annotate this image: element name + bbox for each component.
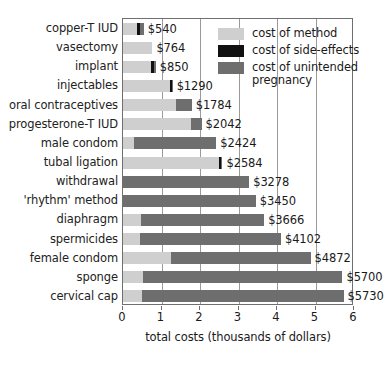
stacked-bar[interactable]: [123, 137, 216, 149]
legend-item-side-effects: cost of side-effects: [218, 44, 360, 57]
bar-segment-method: [123, 23, 137, 35]
legend-label-unintended-pregnancy: cost of unintended pregnancy: [252, 61, 360, 87]
bar-row[interactable]: $2584: [123, 157, 352, 169]
y-axis-label-withdrawal: withdrawal: [56, 174, 118, 188]
bar-segment-preg: [141, 214, 264, 226]
legend-swatch-unintended-pregnancy-icon: [218, 62, 244, 74]
x-tick-label: 5: [311, 310, 318, 324]
stacked-bar[interactable]: [123, 118, 202, 130]
bar-row[interactable]: $1784: [123, 99, 352, 111]
bar-value-label: $3278: [253, 175, 289, 189]
legend-swatch-side-effects-icon: [218, 45, 244, 57]
bar-value-label: $2042: [206, 117, 242, 131]
legend-label-method: cost of method: [252, 27, 337, 40]
stacked-bar[interactable]: [123, 214, 264, 226]
y-axis-label-copper-t-iud: copper-T IUD: [46, 21, 118, 35]
stacked-bar[interactable]: [123, 290, 344, 302]
bar-row[interactable]: $3278: [123, 176, 352, 188]
bar-segment-method: [123, 214, 141, 226]
x-axis-ticks: 0123456: [122, 306, 354, 322]
y-axis-label-sponge: sponge: [77, 270, 118, 284]
y-axis-label-vasectomy: vasectomy: [56, 40, 118, 54]
stacked-bar[interactable]: [123, 195, 256, 207]
bar-segment-preg: [143, 271, 342, 283]
bar-segment-preg: [123, 195, 256, 207]
bar-segment-method: [123, 99, 176, 111]
stacked-bar[interactable]: [123, 176, 249, 188]
bar-row[interactable]: $3666: [123, 214, 352, 226]
stacked-bar[interactable]: [123, 233, 281, 245]
y-axis-label-injectables: injectables: [57, 78, 118, 92]
bar-segment-preg: [221, 157, 222, 169]
y-axis-label-female-condom: female condom: [30, 251, 118, 265]
legend-item-unintended-pregnancy: cost of unintended pregnancy: [218, 61, 360, 87]
bar-row[interactable]: $3450: [123, 195, 352, 207]
stacked-bar[interactable]: [123, 271, 342, 283]
bar-segment-preg: [154, 61, 156, 73]
bar-value-label: $4872: [315, 251, 351, 265]
bar-chart: copper-T IUDvasectomyimplantinjectableso…: [0, 0, 388, 365]
bar-row[interactable]: $2042: [123, 118, 352, 130]
stacked-bar[interactable]: [123, 252, 311, 264]
y-axis-label-implant: implant: [75, 59, 118, 73]
bar-segment-preg: [123, 176, 249, 188]
bar-segment-method: [123, 61, 151, 73]
y-axis-label-cervical-cap: cervical cap: [50, 289, 118, 303]
stacked-bar[interactable]: [123, 157, 222, 169]
bar-value-label: $764: [156, 41, 185, 55]
bar-value-label: $3666: [268, 213, 304, 227]
y-axis-label-diaphragm: diaphragm: [56, 212, 118, 226]
y-axis-label-rhythm-method: 'rhythm' method: [23, 193, 118, 207]
bar-segment-method: [123, 157, 219, 169]
legend: cost of method cost of side-effects cost…: [218, 27, 360, 91]
y-axis-label-spermicides: spermicides: [50, 232, 118, 246]
bar-value-label: $850: [160, 60, 189, 74]
bar-row[interactable]: $4872: [123, 252, 352, 264]
bar-segment-method: [123, 252, 171, 264]
bar-value-label: $2424: [220, 136, 256, 150]
x-tick-label: 2: [195, 310, 202, 324]
bar-row[interactable]: $4102: [123, 233, 352, 245]
y-axis-label-male-condom: male condom: [41, 136, 118, 150]
bar-value-label: $3450: [260, 194, 296, 208]
bar-value-label: $540: [148, 22, 177, 36]
bar-segment-preg: [172, 80, 173, 92]
bar-segment-preg: [142, 290, 343, 302]
bar-segment-method: [123, 42, 152, 54]
bar-segment-method: [123, 137, 134, 149]
bar-segment-method: [123, 290, 142, 302]
y-axis-category-labels: copper-T IUDvasectomyimplantinjectableso…: [0, 18, 118, 305]
bar-segment-method: [123, 118, 191, 130]
x-tick-label: 4: [272, 310, 279, 324]
bar-segment-method: [123, 80, 170, 92]
legend-item-method: cost of method: [218, 27, 360, 40]
bar-value-label: $5730: [348, 289, 384, 303]
bar-row[interactable]: $5700: [123, 271, 352, 283]
y-axis-label-tubal-ligation: tubal ligation: [44, 155, 118, 169]
bar-value-label: $1784: [196, 98, 232, 112]
bar-segment-method: [123, 271, 143, 283]
bar-segment-method: [123, 233, 140, 245]
stacked-bar[interactable]: [123, 23, 144, 35]
bar-row[interactable]: $5730: [123, 290, 352, 302]
stacked-bar[interactable]: [123, 80, 173, 92]
bar-segment-preg: [140, 23, 144, 35]
bar-segment-preg: [134, 137, 216, 149]
legend-swatch-method-icon: [218, 28, 244, 40]
bar-value-label: $2584: [226, 156, 262, 170]
y-axis-label-oral-contraceptives: oral contraceptives: [9, 98, 118, 112]
legend-label-side-effects: cost of side-effects: [252, 44, 359, 57]
bar-row[interactable]: $2424: [123, 137, 352, 149]
bar-segment-preg: [176, 99, 192, 111]
bar-value-label: $4102: [285, 232, 321, 246]
bar-segment-preg: [140, 233, 281, 245]
stacked-bar[interactable]: [123, 99, 192, 111]
stacked-bar[interactable]: [123, 42, 152, 54]
x-axis-title: total costs (thousands of dollars): [122, 330, 354, 344]
x-tick-label: 6: [349, 310, 356, 324]
x-tick-label: 1: [157, 310, 164, 324]
stacked-bar[interactable]: [123, 61, 156, 73]
y-axis-label-progesterone-t-iud: progesterone-T IUD: [9, 117, 118, 131]
bar-value-label: $5700: [346, 270, 382, 284]
bar-segment-preg: [171, 252, 310, 264]
